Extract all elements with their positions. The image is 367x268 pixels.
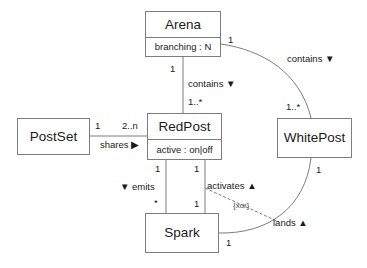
multiplicity-arena-contains-redpost-source: 1: [170, 64, 175, 74]
multiplicity-spark-activates-target: 1: [194, 199, 199, 209]
multiplicity-arena-contains-redpost-target: 1..*: [188, 97, 202, 107]
class-box-spark[interactable]: Spark: [145, 213, 219, 253]
multiplicity-arena-contains-whitepost-source: 1: [228, 35, 233, 45]
class-name-postset: PostSet: [30, 119, 77, 154]
class-box-redpost[interactable]: RedPost active : on|off: [147, 113, 222, 160]
association-label-spark-activates-redpost: activates ▲: [207, 181, 257, 191]
class-name-redpost: RedPost: [148, 114, 221, 139]
multiplicity-spark-lands-target: 1: [316, 165, 321, 175]
class-attribute-redpost-active: active : on|off: [148, 139, 221, 159]
association-label-arena-contains-whitepost: contains ▼: [287, 54, 334, 64]
class-name-spark: Spark: [164, 214, 199, 252]
constraint-label-xor: {xor}: [233, 202, 249, 210]
association-label-postset-shares-redpost: shares ▶: [100, 140, 139, 150]
class-attribute-arena-branching: branching : N: [146, 37, 220, 56]
association-label-redpost-emits-spark: ▼ emits: [120, 182, 155, 192]
multiplicity-redpost-emits-target: *: [154, 198, 158, 208]
multiplicity-spark-lands-source: 1: [226, 238, 231, 248]
association-label-spark-lands-whitepost: lands ▲: [273, 218, 308, 228]
uml-class-diagram: Arena branching : N RedPost active : on|…: [0, 0, 367, 268]
class-box-arena[interactable]: Arena branching : N: [145, 11, 221, 57]
multiplicity-postset-shares-target: 2..n: [122, 121, 138, 131]
class-box-postset[interactable]: PostSet: [17, 118, 90, 155]
multiplicity-redpost-emits-source: 1: [155, 164, 160, 174]
multiplicity-arena-contains-whitepost-target: 1..*: [286, 102, 300, 112]
class-name-whitepost: WhitePost: [284, 119, 346, 157]
class-name-arena: Arena: [146, 12, 220, 37]
class-box-whitepost[interactable]: WhitePost: [277, 118, 352, 158]
association-label-arena-contains-redpost: contains ▼: [188, 79, 235, 89]
multiplicity-postset-shares-source: 1: [95, 121, 100, 131]
multiplicity-spark-activates-source: 1: [194, 164, 199, 174]
